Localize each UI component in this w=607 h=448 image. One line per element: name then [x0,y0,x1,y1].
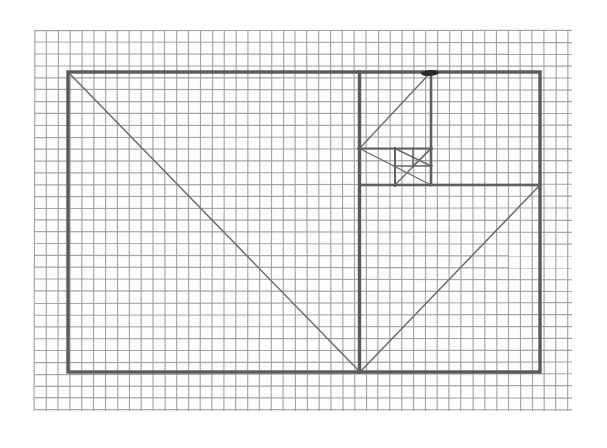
grid-line-vertical [307,31,308,412]
grid-line-horizontal [35,291,573,292]
grid-line-vertical [271,31,272,412]
grid-line-horizontal [35,161,573,162]
grid-line-vertical [259,31,260,412]
grid-line-horizontal [35,362,573,363]
grid-line-horizontal [35,220,573,221]
grid-line-vertical [164,31,165,412]
grid-line-vertical [295,31,296,412]
whirling-rectangles-figure [0,0,607,448]
grid-line-vertical [366,31,367,412]
grid-line-horizontal [35,42,573,43]
grid-line-vertical [58,31,59,412]
grid-line-vertical [283,31,284,412]
grid-line-vertical [354,31,355,412]
grid-line-vertical [236,31,237,412]
grid-line-horizontal [35,243,573,244]
grid-line-vertical [319,31,320,412]
grid-line-horizontal [35,279,573,280]
grid-line-horizontal [35,232,573,233]
grid-line-horizontal [35,89,573,90]
grid-line-horizontal [35,208,573,209]
grid-line-vertical [117,31,118,412]
grid-line-horizontal [35,196,573,197]
figure-canvas [0,0,607,448]
grid-line-vertical [93,31,94,412]
